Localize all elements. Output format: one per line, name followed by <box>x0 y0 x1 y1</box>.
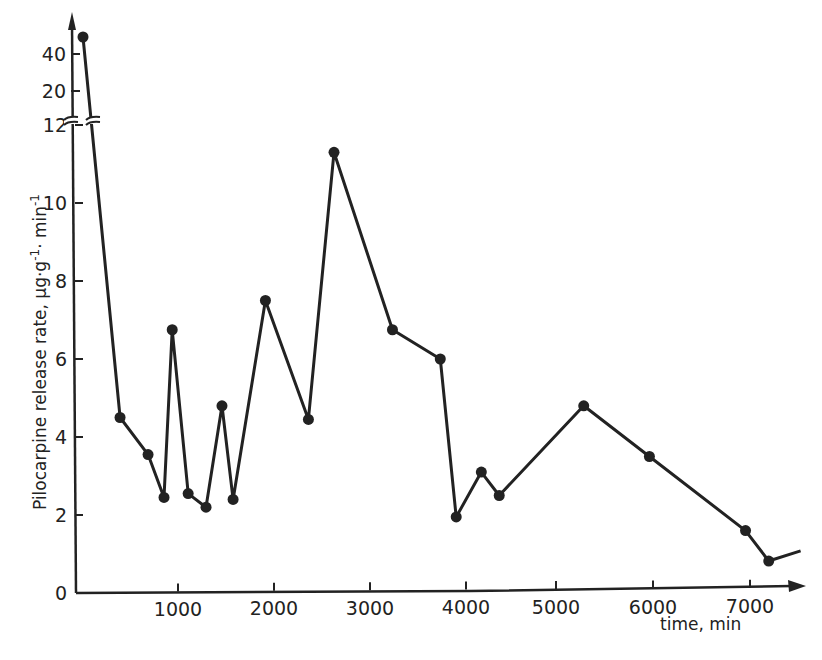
data-point-marker <box>159 492 170 503</box>
data-point-marker <box>115 412 126 423</box>
y-tick-label: 4 <box>55 426 67 448</box>
data-point-marker <box>228 494 239 505</box>
data-point-marker <box>167 324 178 335</box>
data-line <box>83 37 801 561</box>
data-point-marker <box>740 525 751 536</box>
y-axis-line <box>72 22 76 593</box>
data-point-marker <box>78 32 89 43</box>
data-point-marker <box>201 502 212 513</box>
y-tick-label: 2 <box>55 504 67 526</box>
tick-marks <box>71 54 750 591</box>
data-point-marker <box>216 400 227 411</box>
release-rate-chart: 0246810122040100020003000400050006000700… <box>0 0 822 660</box>
x-tick-label: 4000 <box>442 596 490 618</box>
axes <box>68 12 806 593</box>
y-tick-label: 0 <box>55 582 67 604</box>
y-axis-title: Pilocarpine release rate, µg·g-1· min-1 <box>28 194 50 510</box>
y-tick-label-upper: 20 <box>42 80 66 102</box>
x-tick-label: 1000 <box>154 598 202 620</box>
y-tick-label-upper: 40 <box>42 43 66 65</box>
y-axis-title-sup1: -1 <box>28 249 42 261</box>
data-point-marker <box>763 556 774 567</box>
y-axis-title-mid: · min <box>30 206 50 249</box>
data-point-marker <box>644 451 655 462</box>
data-point-marker <box>303 414 314 425</box>
data-markers <box>78 32 775 567</box>
data-point-marker <box>494 490 505 501</box>
x-axis-line <box>76 586 792 593</box>
x-tick-label: 3000 <box>346 597 394 619</box>
x-axis-arrow-icon <box>788 580 806 592</box>
y-tick-label: 12 <box>43 114 67 136</box>
data-point-marker <box>260 295 271 306</box>
x-tick-label: 5000 <box>532 596 580 618</box>
x-axis-title: time, min <box>660 614 741 634</box>
tick-labels: 0246810122040100020003000400050006000700… <box>42 43 774 620</box>
data-point-marker <box>578 400 589 411</box>
data-point-marker <box>183 488 194 499</box>
data-point-marker <box>387 324 398 335</box>
y-tick-label: 6 <box>55 348 67 370</box>
y-axis-arrow-icon <box>68 12 76 30</box>
y-axis-title-sup2: -1 <box>28 194 42 206</box>
data-point-marker <box>143 449 154 460</box>
data-point-marker <box>476 467 487 478</box>
x-tick-label: 2000 <box>250 597 298 619</box>
y-axis-title-main: Pilocarpine release rate, µg·g <box>30 261 50 510</box>
axis-break-marks <box>64 117 100 125</box>
data-point-marker <box>329 147 340 158</box>
data-point-marker <box>435 354 446 365</box>
data-point-marker <box>451 511 462 522</box>
y-tick-label: 8 <box>55 270 67 292</box>
